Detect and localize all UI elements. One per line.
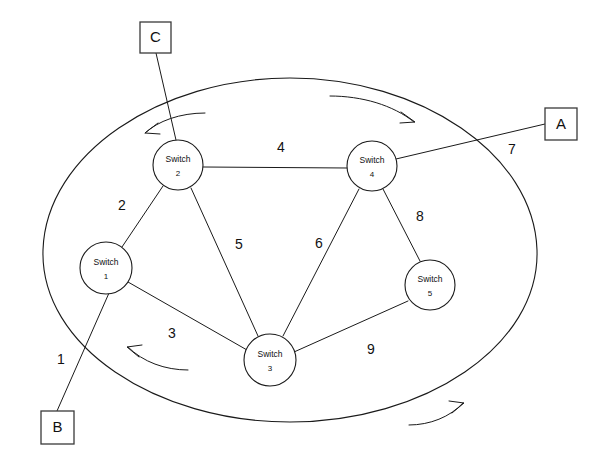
switch4-type-label: Switch [359,155,384,165]
switch5-number: 5 [428,289,433,298]
switch5-type-label: Switch [417,274,442,284]
link-label-8: 8 [416,208,424,224]
switch3-type-label: Switch [257,349,282,359]
diagram-canvas: Switch 1 Switch 2 Switch 3 Switch 4 Swit… [0,0,592,460]
node-switch4[interactable]: Switch 4 [347,141,397,191]
link-label-4: 4 [277,139,285,155]
link-switch4-switch3[interactable] [283,189,359,336]
terminal-a-label: A [556,115,566,132]
cloud-arc-top-right [330,96,414,122]
link-switch2-switch4[interactable] [203,167,347,168]
switch2-number: 2 [176,169,181,178]
cloud-arc-arrow-bottom-right [449,401,464,413]
link-termC-switch2[interactable] [156,53,176,140]
link-switch2-switch3[interactable] [191,188,258,336]
switch5-circle[interactable] [405,260,455,310]
link-label-2: 2 [118,197,126,213]
network-diagram: Switch 1 Switch 2 Switch 3 Switch 4 Swit… [0,0,592,460]
link-switch3-switch5[interactable] [294,301,408,352]
cloud-arc-bottom-left [128,347,188,370]
terminal-c[interactable]: C [140,22,171,53]
switch3-circle[interactable] [244,334,296,386]
node-switch2[interactable]: Switch 2 [153,140,203,190]
link-label-3: 3 [168,325,176,341]
node-switch5[interactable]: Switch 5 [405,260,455,310]
link-switch4-switch5[interactable] [383,189,420,261]
link-switch1-switch2[interactable] [122,186,163,247]
switch2-circle[interactable] [153,140,203,190]
switch4-number: 4 [370,170,375,179]
link-label-5: 5 [235,236,243,252]
node-switch1[interactable]: Switch 1 [80,242,132,294]
terminal-a[interactable]: A [545,108,577,140]
cloud-arc-bottom-right [409,403,463,425]
switch1-number: 1 [104,272,109,281]
network-links [57,53,545,411]
link-label-9: 9 [367,341,375,357]
link-label-6: 6 [315,235,323,251]
link-switch4-termA[interactable] [396,124,545,159]
terminal-c-label: C [150,28,161,45]
link-label-1: 1 [57,351,65,367]
terminal-b[interactable]: B [41,411,74,444]
switch3-number: 3 [268,364,273,373]
switch1-type-label: Switch [93,257,118,267]
switch1-circle[interactable] [80,242,132,294]
node-switch3[interactable]: Switch 3 [244,334,296,386]
terminal-b-label: B [52,418,62,435]
link-switch1-switch3[interactable] [128,282,247,350]
cloud-arc-top-left [145,113,205,133]
cloud-arc-arrow-bottom-left [127,345,142,357]
cloud-arc-arrow-top-left [145,123,160,134]
switch2-type-label: Switch [165,154,190,164]
link-label-7: 7 [508,141,516,157]
switch4-circle[interactable] [347,141,397,191]
